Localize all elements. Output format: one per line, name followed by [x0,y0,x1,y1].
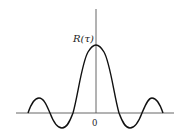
origin-label: 0 [92,118,97,128]
autocorrelation-diagram: R(τ) 0 [0,0,184,138]
autocorrelation-curve [28,45,163,128]
y-axis-label: R(τ) [72,33,94,44]
